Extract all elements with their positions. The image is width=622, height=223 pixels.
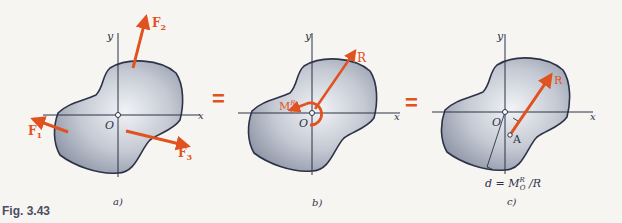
equals-sign-2: = (405, 90, 418, 115)
force-f1-label: F1 (28, 124, 42, 140)
force-f3-label: F3 (178, 146, 193, 162)
origin-label-b: O (299, 117, 308, 130)
origin-point-a (116, 113, 121, 118)
resultant-r-label-c: R (554, 74, 563, 87)
y-axis-label-a: y (106, 30, 114, 43)
x-axis-label-c: x (590, 111, 596, 122)
x-axis-label-a: x (198, 110, 204, 121)
y-axis-label-b: y (304, 30, 312, 43)
panel-b-sublabel: b) (312, 197, 322, 208)
panel-a (33, 17, 200, 177)
panel-a-sublabel: a) (113, 196, 123, 207)
y-axis-label-c: y (496, 30, 504, 43)
equals-sign-1: = (212, 86, 225, 111)
panel-c (432, 34, 593, 174)
panel-c-sublabel: c) (507, 196, 517, 207)
panel-b (238, 33, 400, 175)
distance-formula: d = MRO /R (485, 176, 541, 192)
figure-canvas: y O F1 F2 F3 x a) = y R MRO O x b) = y R… (0, 0, 622, 223)
origin-point-c (503, 110, 508, 115)
point-a (508, 133, 512, 137)
resultant-r-label-b: R (357, 51, 367, 65)
x-axis-label-b: x (394, 111, 400, 122)
figure-caption: Fig. 3.43 (2, 204, 50, 218)
origin-label-c: O (492, 116, 501, 129)
force-f2-label: F2 (152, 16, 166, 32)
point-a-label: A (512, 133, 522, 146)
moment-label: MRO (279, 99, 297, 115)
origin-point-b (310, 111, 315, 116)
origin-label-a: O (105, 119, 114, 132)
